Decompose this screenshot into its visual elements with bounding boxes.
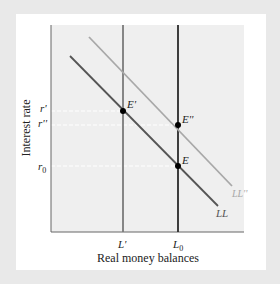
label-e: E [181, 154, 189, 166]
x-axis-title: Real money balances [97, 251, 199, 265]
tick-r0: r0 [38, 160, 46, 175]
tick-r-prime: r' [40, 102, 47, 114]
tick-l-prime: L' [117, 238, 127, 250]
point-e-double-prime [175, 122, 181, 128]
y-axis-title: Interest rate [19, 100, 33, 157]
tick-r-double-prime: r'' [38, 117, 48, 129]
label-e-prime: E' [126, 98, 137, 110]
point-e-prime [120, 108, 126, 114]
label-ll-double-prime: LL'' [231, 188, 248, 199]
label-e-double-prime: E'' [181, 113, 194, 125]
money-market-diagram: E' E'' E LL'' LL r' r'' r0 L' L0 Real mo… [0, 0, 280, 284]
label-ll: LL [215, 207, 228, 219]
plot-area [51, 25, 244, 232]
point-e [175, 163, 181, 169]
